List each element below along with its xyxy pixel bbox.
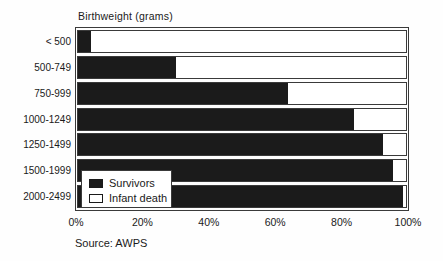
bar-survivors — [78, 109, 354, 130]
survivors-swatch-icon — [89, 179, 103, 188]
x-axis-tick-label: 40% — [198, 216, 219, 228]
bar-track-infant-death — [77, 133, 407, 156]
y-axis-label: < 500 — [0, 36, 71, 48]
legend-label-survivors: Survivors — [109, 178, 155, 189]
bar-survivors — [78, 134, 383, 155]
bar-survivors — [78, 31, 91, 52]
bar-survivors — [78, 83, 288, 104]
legend-label-infant-death: Infant death — [109, 193, 167, 204]
x-axis-tick-label: 60% — [265, 216, 286, 228]
x-axis-tick-label: 80% — [331, 216, 352, 228]
y-axis-label: 1500-1999 — [0, 165, 71, 177]
x-axis-tick-label: 100% — [395, 216, 422, 228]
legend-item-infant-death: Infant death — [89, 191, 171, 205]
x-axis-tick-label: 0% — [68, 216, 83, 228]
y-axis-label: 750-999 — [0, 88, 71, 100]
legend: Survivors Infant death — [81, 170, 172, 208]
bar-track-infant-death — [77, 56, 407, 79]
y-axis-label: 2000-2499 — [0, 191, 71, 203]
y-axis-label: 1250-1499 — [0, 139, 71, 151]
bar-track-infant-death — [77, 30, 407, 53]
y-axis-label: 1000-1249 — [0, 114, 71, 126]
chart-title: Birthweight (grams) — [78, 10, 173, 22]
y-axis-label: 500-749 — [0, 62, 71, 74]
birthweight-survival-chart: Birthweight (grams) < 500500-749750-9991… — [0, 0, 443, 261]
bar-track-infant-death — [77, 82, 407, 105]
bar-survivors — [78, 57, 176, 78]
source-note: Source: AWPS — [75, 237, 147, 249]
infant-death-swatch-icon — [89, 194, 103, 203]
x-axis-tick-label: 20% — [132, 216, 153, 228]
legend-item-survivors: Survivors — [89, 176, 171, 190]
bar-track-infant-death — [77, 108, 407, 131]
